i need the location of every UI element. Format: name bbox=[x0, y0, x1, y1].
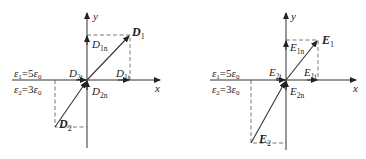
d2n-label: D2n bbox=[91, 85, 108, 100]
d1-label: D1 bbox=[131, 25, 145, 41]
e1t-label: E1t bbox=[303, 66, 317, 81]
e1-label: E1 bbox=[321, 33, 334, 49]
e2-vector bbox=[251, 82, 285, 143]
y-axis-label: y bbox=[290, 10, 296, 22]
e2t-label: E2t bbox=[268, 66, 282, 81]
eps1-label: ε1=5ε0 bbox=[14, 67, 42, 81]
x-axis-label: x bbox=[154, 82, 160, 94]
eps2-label: ε2=3ε0 bbox=[212, 83, 240, 97]
e1n-label: E1n bbox=[289, 41, 304, 56]
y-axis-label: y bbox=[92, 10, 98, 22]
diagram-e-field: y x E1 E2 E1n E1t E2t E2n ε1=5ε0 ε2=3ε0 bbox=[210, 10, 358, 150]
x-axis-label: x bbox=[352, 82, 358, 94]
d1n-label: D1n bbox=[91, 38, 108, 53]
eps1-label: ε1=5ε0 bbox=[212, 67, 240, 81]
eps2-label: ε2=3ε0 bbox=[14, 83, 42, 97]
d2-label: D2 bbox=[58, 117, 72, 133]
e2n-label: E2n bbox=[289, 85, 304, 100]
e2-label: E2 bbox=[258, 132, 271, 148]
diagram-d-field: y x D1 D2 D1n D1t D2t D2n ε1=5ε0 ε2=3ε0 bbox=[12, 10, 160, 148]
